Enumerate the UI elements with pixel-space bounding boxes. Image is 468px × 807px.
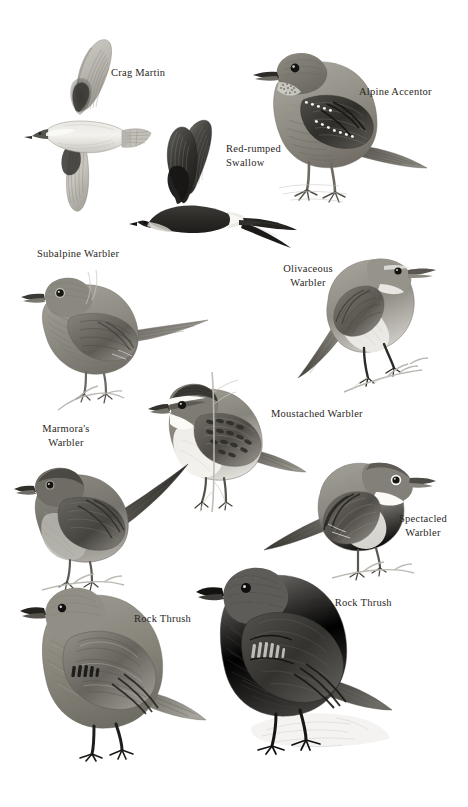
species-label-subalpine-warbler: Subalpine Warbler — [37, 247, 119, 261]
bird-illustration-alpine-accentor — [243, 38, 431, 213]
species-label-crag-martin: Crag Martin — [111, 66, 165, 80]
species-label-moustached-warbler: Moustached Warbler — [271, 407, 363, 421]
species-label-marmoras-warbler: Marmora's Warbler — [30, 422, 102, 449]
species-label-rock-thrush: Rock Thrush — [134, 612, 191, 626]
species-label-spectacled-warbler: Spectacled Warbler — [388, 512, 458, 539]
species-label-olivaceous-warbler: Olivaceous Warbler — [274, 262, 342, 289]
bird-illustration-crag-martin — [18, 33, 154, 223]
field-guide-plate: Crag Martin Alpine Accentor Red-rumped S… — [0, 0, 468, 807]
species-label-red-rumped-swallow: Red-rumped Swallow — [226, 142, 281, 169]
bird-illustration-blue-rock-thrush — [196, 558, 396, 763]
species-label-blue-rock-thrush: Blue Rock Thrush — [311, 596, 392, 610]
species-label-alpine-accentor: Alpine Accentor — [359, 85, 432, 99]
bird-illustration-marmoras-warbler — [12, 452, 202, 592]
bird-illustration-rock-thrush — [20, 578, 210, 763]
